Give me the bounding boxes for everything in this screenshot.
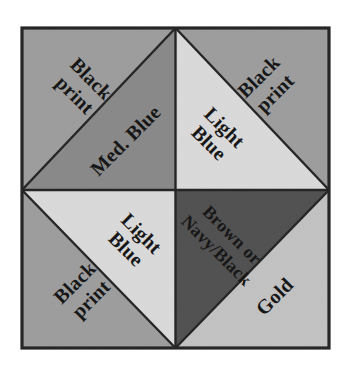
quilt-block-figure: Black print Med. Blue Black print Light … bbox=[20, 26, 331, 350]
diagram-stage: Black print Med. Blue Black print Light … bbox=[0, 0, 351, 373]
quilt-block-svg: Black print Med. Blue Black print Light … bbox=[20, 26, 331, 350]
